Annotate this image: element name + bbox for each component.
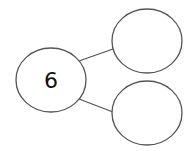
connector-top: [79, 49, 113, 61]
whole-value: 6: [31, 70, 71, 92]
part-circle-top[interactable]: [112, 9, 182, 73]
number-bond-diagram: 6: [0, 0, 194, 151]
part-circle-bottom[interactable]: [112, 81, 182, 145]
number-bond-shapes: [0, 0, 194, 151]
connector-bottom: [79, 99, 113, 112]
